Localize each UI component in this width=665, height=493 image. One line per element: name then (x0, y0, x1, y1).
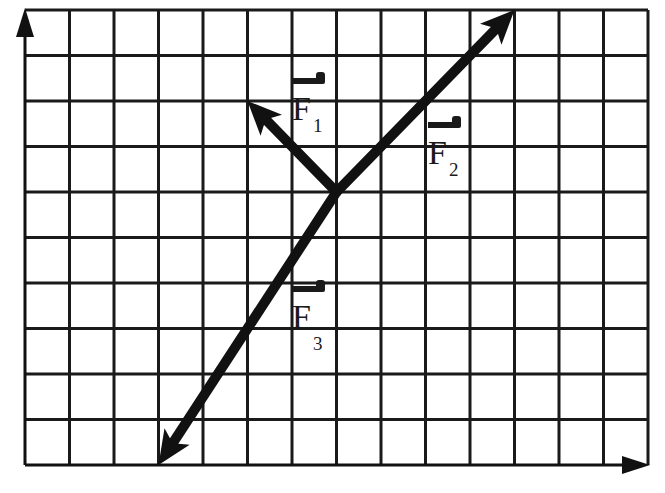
vector-shaft (266, 120, 337, 192)
grid (25, 10, 648, 465)
vector-overbar-icon (292, 78, 322, 84)
label-f2: F2 (428, 136, 458, 170)
y-axis-arrow-icon (16, 8, 34, 37)
force-diagram (0, 0, 665, 493)
vector-overbar-icon (292, 286, 322, 292)
vector-overbar-icon (428, 122, 458, 128)
label-f3: F3 (292, 300, 322, 334)
label-f1: F1 (292, 92, 322, 126)
vector-shaft (337, 29, 497, 192)
x-axis-arrow-icon (622, 456, 650, 474)
axes (16, 8, 650, 474)
